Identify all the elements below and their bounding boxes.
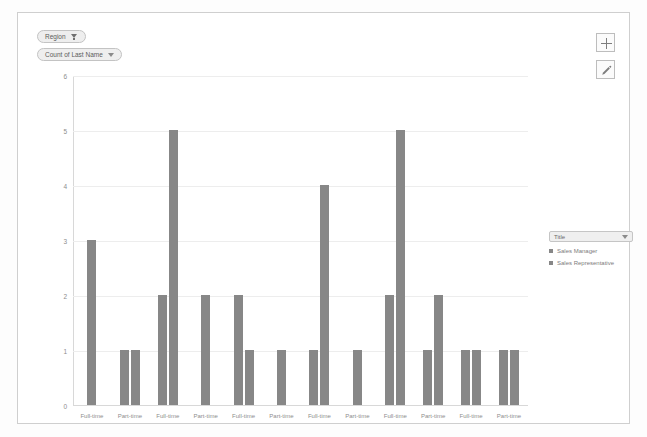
bar[interactable]	[169, 130, 178, 405]
y-axis-tick-label: 4	[63, 183, 67, 190]
bar[interactable]	[120, 350, 129, 405]
legend-item[interactable]: Sales Manager	[549, 248, 633, 254]
bar[interactable]	[472, 350, 481, 405]
legend-item-label: Sales Manager	[557, 248, 597, 254]
bar[interactable]	[234, 295, 243, 405]
y-axis-tick-label: 2	[63, 293, 67, 300]
gridline	[73, 186, 528, 187]
bar[interactable]	[277, 350, 286, 405]
bar[interactable]	[423, 350, 432, 405]
legend: Title Sales ManagerSales Representative	[549, 231, 633, 266]
y-axis-tick-label: 6	[63, 73, 67, 80]
x-axis-tick-label: Full-time	[384, 413, 407, 419]
bar[interactable]	[499, 350, 508, 405]
bar[interactable]	[201, 295, 210, 405]
bar[interactable]	[87, 240, 96, 405]
y-axis-tick-label: 5	[63, 128, 67, 135]
y-axis-tick-label: 3	[63, 238, 67, 245]
bar[interactable]	[510, 350, 519, 405]
y-axis-tick-label: 1	[63, 348, 67, 355]
bar-chart-plot-area: 0123456 Full-timePart-timeFull-timePart-…	[73, 76, 528, 406]
field-pill-region-label: Region	[45, 30, 66, 43]
x-axis-tick-label: Full-time	[80, 413, 103, 419]
bar[interactable]	[461, 350, 470, 405]
x-axis-tick-label: Full-time	[308, 413, 331, 419]
add-visual-button[interactable]	[596, 33, 615, 52]
bar[interactable]	[131, 350, 140, 405]
legend-swatch-icon	[549, 261, 553, 265]
pencil-icon	[601, 65, 612, 76]
bar[interactable]	[396, 130, 405, 405]
x-axis-tick-label: Full-time	[156, 413, 179, 419]
bar[interactable]	[385, 295, 394, 405]
bar[interactable]	[309, 350, 318, 405]
plus-icon-stroke	[606, 38, 607, 49]
x-axis-tick-label: Part-time	[194, 413, 218, 419]
x-axis-tick-label: Part-time	[421, 413, 445, 419]
legend-swatch-icon	[549, 249, 553, 253]
legend-title-label: Title	[554, 234, 565, 240]
x-axis-tick-label: Full-time	[232, 413, 255, 419]
x-axis-tick-label: Part-time	[118, 413, 142, 419]
bar[interactable]	[320, 185, 329, 405]
y-axis-tick-label: 0	[63, 403, 67, 410]
legend-title-dropdown[interactable]: Title	[549, 231, 633, 242]
gridline	[73, 351, 528, 352]
x-axis-tick-label: Part-time	[269, 413, 293, 419]
chevron-down-icon[interactable]	[622, 235, 628, 239]
bar[interactable]	[245, 350, 254, 405]
screenshot-root: Region Count of Last Name 0123456 Full-t	[0, 0, 647, 437]
report-canvas: Region Count of Last Name 0123456 Full-t	[17, 12, 630, 424]
legend-item[interactable]: Sales Representative	[549, 260, 633, 266]
field-pill-region[interactable]: Region	[37, 30, 86, 43]
x-axis-tick-label: Part-time	[497, 413, 521, 419]
gridline	[73, 241, 528, 242]
field-pill-measure[interactable]: Count of Last Name	[37, 48, 122, 61]
gridline	[73, 131, 528, 132]
gridline	[73, 296, 528, 297]
legend-entries: Sales ManagerSales Representative	[549, 248, 633, 266]
x-axis-tick-label: Full-time	[460, 413, 483, 419]
bar[interactable]	[353, 350, 362, 405]
bar[interactable]	[158, 295, 167, 405]
chevron-down-icon[interactable]	[108, 53, 114, 57]
gridline	[73, 76, 528, 77]
field-pill-measure-label: Count of Last Name	[45, 48, 103, 61]
legend-item-label: Sales Representative	[557, 260, 614, 266]
filter-funnel-icon[interactable]	[71, 33, 78, 40]
bar[interactable]	[434, 295, 443, 405]
x-axis-baseline	[73, 405, 528, 406]
edit-visual-button[interactable]	[596, 60, 615, 79]
x-axis-tick-label: Part-time	[345, 413, 369, 419]
